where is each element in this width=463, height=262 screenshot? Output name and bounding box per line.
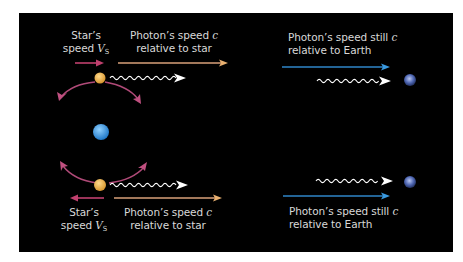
photon-wave-top-star (110, 74, 186, 83)
label-line: relative to Earth (289, 218, 398, 231)
star-speed-label-top: Star’s speed VS (58, 29, 114, 59)
orbit-arc-bottom-left (60, 161, 97, 183)
label-text: Photon’s speed still (288, 31, 391, 43)
star-bottom (94, 179, 106, 191)
label-text: speed (61, 219, 95, 231)
velocity-subscript: S (105, 48, 109, 56)
earth-top (404, 74, 416, 86)
label-text: speed (63, 42, 97, 54)
label-line: relative to star (120, 42, 228, 55)
velocity-symbol: V (97, 42, 104, 54)
photon-speed-earth-label-bottom: Photon’s speed still c relative to Earth (289, 205, 398, 231)
speed-of-light-symbol: c (212, 29, 218, 41)
label-line: Photon’s speed c (114, 206, 222, 219)
label-text: Photon’s speed (130, 29, 212, 41)
orbit-arc-bottom-right (109, 162, 147, 183)
star-velocity-arrow-bottom (70, 195, 104, 202)
photon-speed-relative-earth-arrow-top (282, 64, 390, 71)
photon-speed-relative-star-arrow-top (118, 60, 228, 67)
star-top (95, 73, 106, 84)
photon-speed-earth-label-top: Photon’s speed still c relative to Earth (288, 31, 397, 57)
star-velocity-arrow-top (75, 60, 104, 67)
orbit-arc-top-left (57, 82, 95, 101)
earth-bottom (404, 176, 416, 188)
photon-speed-relative-star-arrow-bottom (114, 195, 222, 202)
label-line: Photon’s speed still c (289, 205, 398, 218)
speed-of-light-symbol: c (206, 206, 212, 218)
planet (93, 124, 109, 140)
velocity-symbol: V (95, 219, 102, 231)
label-line: speed VS (56, 219, 112, 236)
label-line: Star’s (56, 206, 112, 219)
photon-speed-star-label-top: Photon’s speed c relative to star (120, 29, 228, 55)
photon-wave-bottom-earth (316, 177, 393, 186)
label-line: speed VS (58, 42, 114, 59)
label-line: Star’s (58, 29, 114, 42)
label-text: Photon’s speed still (289, 205, 392, 217)
star-speed-label-bottom: Star’s speed VS (56, 206, 112, 236)
speed-of-light-symbol: c (391, 31, 397, 43)
velocity-subscript: S (103, 225, 107, 233)
orbit-arc-top-right (105, 82, 141, 104)
label-text: Photon’s speed (124, 206, 206, 218)
photon-speed-relative-earth-arrow-bottom (283, 193, 390, 200)
label-line: relative to Earth (288, 44, 397, 57)
photon-wave-bottom-star (110, 181, 188, 190)
speed-of-light-symbol: c (392, 205, 398, 217)
label-line: Photon’s speed c (120, 29, 228, 42)
photon-wave-top-earth (317, 77, 391, 86)
photon-speed-star-label-bottom: Photon’s speed c relative to star (114, 206, 222, 232)
label-line: Photon’s speed still c (288, 31, 397, 44)
label-line: relative to star (114, 219, 222, 232)
